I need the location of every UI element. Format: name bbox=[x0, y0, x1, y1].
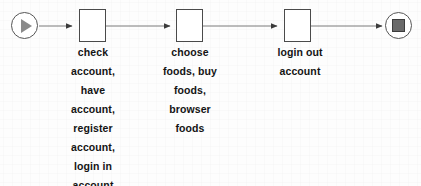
task-box-2[interactable] bbox=[176, 9, 203, 42]
task-2-label: choose foods, buy foods, browser foods bbox=[150, 43, 230, 138]
task-1-label: check account, have account, register ac… bbox=[55, 43, 131, 186]
start-node[interactable] bbox=[11, 12, 38, 39]
task-box-3[interactable] bbox=[284, 9, 311, 42]
stop-square-icon bbox=[392, 19, 405, 32]
end-node[interactable] bbox=[385, 12, 412, 39]
play-triangle-icon bbox=[21, 19, 32, 33]
task-box-1[interactable] bbox=[79, 9, 106, 42]
task-3-label: login out account bbox=[258, 43, 342, 81]
diagram-canvas: check account, have account, register ac… bbox=[0, 0, 421, 186]
